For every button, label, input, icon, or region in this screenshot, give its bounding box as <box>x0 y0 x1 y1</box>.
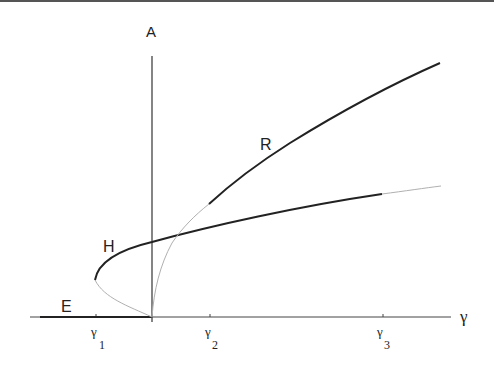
branch-r-stable <box>209 63 440 204</box>
gamma3-subscript: 3 <box>384 338 390 352</box>
gamma3-label: γ <box>376 324 383 339</box>
branch-e-label: E <box>61 298 72 315</box>
gamma1-label: γ <box>90 324 97 339</box>
gamma2-subscript: 2 <box>212 338 218 352</box>
branch-r-unstable <box>152 204 209 317</box>
branch-r-label: R <box>260 136 272 153</box>
gamma1-subscript: 1 <box>99 338 105 352</box>
gamma2-label: γ <box>204 324 211 339</box>
branch-h-stable <box>95 194 382 280</box>
branch-h-unstable-upper <box>382 186 441 194</box>
branch-h-unstable-lower <box>95 280 152 317</box>
x-axis-label: γ <box>459 307 468 326</box>
y-axis-label: A <box>146 23 156 40</box>
bifurcation-diagram: A γ E H R γ 1 γ 2 γ 3 <box>0 0 494 368</box>
branch-h-label: H <box>103 238 115 255</box>
